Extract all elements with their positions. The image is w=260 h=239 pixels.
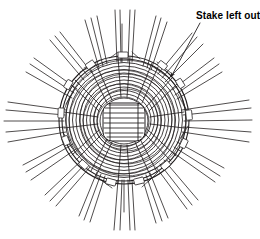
figure-root: Stake left out bbox=[0, 0, 260, 239]
woven-base-core bbox=[103, 103, 145, 141]
basket-base-illustration: Stake left out bbox=[0, 0, 260, 239]
stake-left-out-label: Stake left out bbox=[196, 10, 260, 21]
